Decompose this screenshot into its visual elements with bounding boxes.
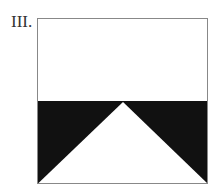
figure-label: III. [11, 12, 32, 32]
square-figure [37, 18, 209, 189]
top-half [38, 19, 208, 101]
square-diagram [37, 18, 209, 185]
